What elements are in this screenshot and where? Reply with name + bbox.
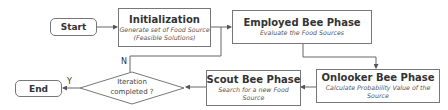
initialization-desc-1: Generate set of Food Source bbox=[119, 26, 209, 34]
decision-node: Iteration completed ? bbox=[95, 78, 169, 97]
start-node: Start bbox=[50, 18, 97, 36]
initialization-title: Initialization bbox=[129, 14, 200, 26]
decision-line-2: completed ? bbox=[95, 88, 169, 98]
onlooker-desc-1: Calculate Probability Value of the bbox=[326, 84, 431, 92]
yes-edge-label: Y bbox=[67, 77, 72, 86]
employed-title: Employed Bee Phase bbox=[243, 17, 360, 29]
scout-title: Scout Bee Phase bbox=[207, 74, 301, 86]
scout-desc-1: Search for a new Food bbox=[218, 86, 289, 94]
start-label: Start bbox=[61, 22, 87, 32]
initialization-node: Initialization Generate set of Food Sour… bbox=[118, 8, 211, 47]
onlooker-desc-2: Source bbox=[367, 92, 389, 100]
decision-line-1: Iteration bbox=[95, 78, 169, 88]
no-edge-label: N bbox=[121, 57, 127, 66]
employed-desc: Evaluate the Food Sources bbox=[260, 29, 344, 37]
onlooker-bee-node: Onlooker Bee Phase Calculate Probability… bbox=[316, 69, 440, 103]
scout-desc-2: Source bbox=[243, 94, 265, 102]
onlooker-title: Onlooker Bee Phase bbox=[322, 72, 435, 84]
end-node: End bbox=[15, 80, 62, 97]
initialization-desc-2: (Feasible Solutions) bbox=[134, 34, 196, 42]
employed-bee-node: Employed Bee Phase Evaluate the Food Sou… bbox=[232, 10, 372, 44]
scout-bee-node: Scout Bee Phase Search for a new Food So… bbox=[206, 70, 301, 106]
end-label: End bbox=[29, 84, 48, 94]
